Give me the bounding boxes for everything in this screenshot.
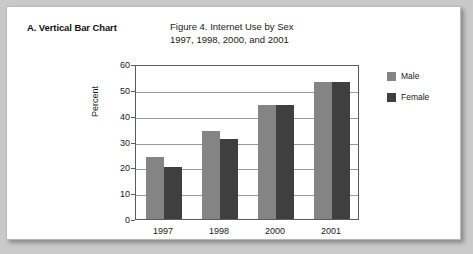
y-tick-label: 10 xyxy=(100,189,130,199)
bar-group xyxy=(202,66,238,219)
x-tick-label: 2000 xyxy=(245,226,305,236)
legend-item-male: Male xyxy=(387,71,429,81)
bar-male-1998 xyxy=(202,131,220,219)
y-tick-label: 30 xyxy=(100,138,130,148)
legend-label: Female xyxy=(401,92,429,102)
bar-female-2001 xyxy=(332,82,350,219)
y-tick-mark xyxy=(131,220,135,221)
bar-female-1997 xyxy=(164,167,182,219)
chart-legend: MaleFemale xyxy=(387,71,429,113)
bar-male-2000 xyxy=(258,105,276,219)
x-tick-label: 2001 xyxy=(301,226,361,236)
bars-layer xyxy=(136,66,358,219)
plot-frame xyxy=(135,65,359,220)
y-axis-label: Percent xyxy=(90,86,100,117)
y-tick-label: 50 xyxy=(100,86,130,96)
figure-card: A. Vertical Bar Chart Figure 4. Internet… xyxy=(6,6,461,240)
bar-male-2001 xyxy=(314,82,332,219)
y-tick-label: 0 xyxy=(100,215,130,225)
bar-female-1998 xyxy=(220,139,238,219)
bar-male-1997 xyxy=(146,157,164,219)
bar-female-2000 xyxy=(276,105,294,219)
legend-swatch-female xyxy=(387,93,396,102)
legend-item-female: Female xyxy=(387,92,429,102)
x-tick-label: 1997 xyxy=(133,226,193,236)
screenshot-root: A. Vertical Bar Chart Figure 4. Internet… xyxy=(0,0,473,254)
bar-group xyxy=(146,66,182,219)
x-tick-label: 1998 xyxy=(189,226,249,236)
y-tick-label: 20 xyxy=(100,163,130,173)
bar-group xyxy=(314,66,350,219)
chart-area: Percent 0102030405060 1997199820002001 xyxy=(7,7,473,254)
y-tick-label: 60 xyxy=(100,60,130,70)
bar-group xyxy=(258,66,294,219)
y-tick-label: 40 xyxy=(100,112,130,122)
legend-label: Male xyxy=(401,71,419,81)
legend-swatch-male xyxy=(387,72,396,81)
